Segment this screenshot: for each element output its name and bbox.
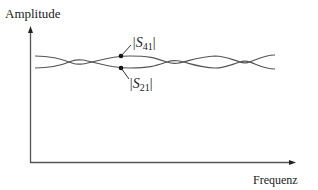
y-axis-arrowhead-icon bbox=[28, 26, 33, 33]
s41-leader bbox=[121, 45, 131, 56]
s21-leader bbox=[121, 68, 129, 79]
x-axis-label: Frequenz bbox=[253, 173, 298, 187]
s21-label: |S21| bbox=[129, 76, 153, 93]
y-axis-label: Amplitude bbox=[5, 6, 61, 21]
amplitude-frequency-diagram: Amplitude Frequenz |S41| |S21| bbox=[0, 0, 318, 190]
s41-label: |S41| bbox=[132, 35, 156, 52]
x-axis-arrowhead-icon bbox=[289, 160, 296, 165]
